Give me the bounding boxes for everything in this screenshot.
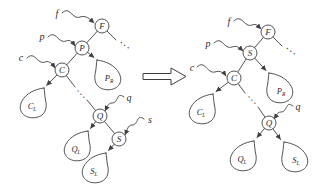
pointer-arrow <box>48 35 75 46</box>
pointer-label-c: c <box>19 52 24 63</box>
right-pointer-p: p <box>205 38 244 51</box>
double-arrow-right-icon <box>143 68 186 85</box>
node-label: Q <box>97 111 104 121</box>
left-pointer-q: q <box>105 92 132 111</box>
pointer-arrow <box>62 11 94 23</box>
node-label: C <box>59 65 66 75</box>
right-pointer-q: q <box>274 101 301 119</box>
left-subtree-CL: CL <box>20 70 62 118</box>
subtree-label-CL: CL <box>197 107 206 118</box>
subtree-label-QL: QL <box>71 144 80 155</box>
right-node-Q: Q <box>262 116 276 130</box>
left-pointer-s: s <box>125 114 152 135</box>
right-node-C: C <box>227 71 241 85</box>
pointer-label-p: p <box>39 31 45 42</box>
pointer-arrow <box>234 19 261 29</box>
subtree-label-PR: PR <box>104 73 114 84</box>
left-subtree-SL: SL <box>82 139 119 183</box>
node-label: F <box>98 21 105 31</box>
left-pointer-f: f <box>56 8 94 23</box>
pointer-arrow <box>27 56 55 68</box>
left-subtree-PR: PR <box>82 48 121 90</box>
pointer-arrow <box>105 95 124 111</box>
left-node-P: P <box>75 41 89 55</box>
diagram-svg: ... ... PR CL QL SL f p <box>0 0 327 193</box>
pointer-arrow <box>125 117 144 135</box>
left-ellipsis-mid: ... <box>75 84 92 102</box>
pointer-label-s: s <box>148 114 152 125</box>
node-label: C <box>231 73 238 83</box>
pointer-label-f: f <box>228 16 232 27</box>
right-ellipsis-top: ... <box>285 40 302 57</box>
left-node-C: C <box>55 63 69 77</box>
subtree-label-CL: CL <box>28 101 37 112</box>
pointer-label-f: f <box>56 8 60 19</box>
pointer-arrow <box>214 41 243 51</box>
bst-delete-figure: ... ... PR CL QL SL f p <box>0 0 327 193</box>
pointer-label-q: q <box>127 92 132 103</box>
right-subtree-SL: SL <box>269 123 308 172</box>
right-pointer-f: f <box>228 16 261 29</box>
left-tree: ... ... PR CL QL SL f p <box>19 8 152 183</box>
left-node-S: S <box>112 132 126 146</box>
pointer-arrow <box>197 65 226 76</box>
node-label: P <box>78 43 85 53</box>
left-subtree-QL: QL <box>64 116 100 161</box>
left-pointer-p: p <box>39 31 76 46</box>
subtree-label-SL: SL <box>292 155 299 166</box>
right-node-F: F <box>261 25 275 39</box>
left-node-Q: Q <box>93 109 107 123</box>
pointer-label-p: p <box>205 38 211 49</box>
node-label: F <box>264 27 271 37</box>
node-label: S <box>117 134 122 144</box>
right-subtree-CL: CL <box>189 78 234 124</box>
right-node-S: S <box>243 46 257 60</box>
left-node-F: F <box>95 19 109 33</box>
right-ellipsis-mid: ... <box>246 90 263 108</box>
subtree-label-SL: SL <box>90 166 97 177</box>
subtree-label-PR: PR <box>276 86 286 97</box>
left-ellipsis-top: ... <box>119 34 136 51</box>
right-tree: ... ... PR CL QL SL f p <box>189 16 308 172</box>
right-subtree-QL: QL <box>230 123 269 171</box>
pointer-label-c: c <box>190 62 195 73</box>
node-label: Q <box>266 118 273 128</box>
subtree-label-QL: QL <box>237 154 246 165</box>
pointer-arrow <box>274 104 293 119</box>
right-pointer-c: c <box>190 62 226 76</box>
left-pointer-c: c <box>19 52 55 68</box>
node-label: S <box>248 48 253 58</box>
pointer-label-q: q <box>296 101 301 112</box>
